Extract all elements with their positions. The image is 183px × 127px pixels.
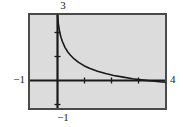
- x-min-label: −1: [5, 74, 25, 85]
- y-max-label: 3: [52, 0, 74, 11]
- graph-screenshot: 3 −1 −1 4: [0, 0, 183, 127]
- plot-frame: [28, 13, 167, 110]
- y-min-label: −1: [52, 112, 74, 123]
- x-max-label: 4: [170, 74, 183, 85]
